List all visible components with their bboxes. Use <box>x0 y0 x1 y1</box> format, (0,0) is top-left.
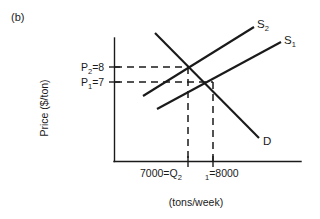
panel-label: (b) <box>11 11 24 23</box>
quantity-label-q1: 1=8000 <box>205 167 239 182</box>
price-label-p2: P2=8 <box>81 61 104 76</box>
quantity-label-q2: 7000=Q2 <box>140 167 182 182</box>
demand-curve-label: D <box>263 135 271 147</box>
supply-demand-figure: (b) P2=8 P1=7 7000=Q2 1=8000 S2 S1 D Pri… <box>0 0 320 219</box>
price-label-p1: P1=7 <box>81 76 104 91</box>
y-axis-title: Price ($/ton) <box>38 79 50 136</box>
demand-curve <box>155 33 259 138</box>
supply-curve-s1-label: S1 <box>284 34 296 49</box>
supply-curve-s2-label: S2 <box>257 18 269 33</box>
x-axis-title: (tons/week) <box>169 196 223 208</box>
